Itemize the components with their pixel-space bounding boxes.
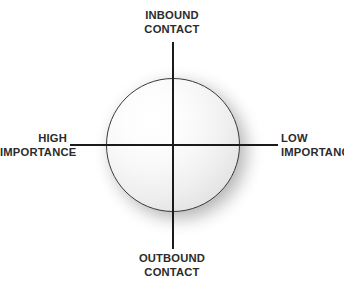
axis-label-top-line2: CONTACT — [0, 23, 344, 37]
axis-label-bottom-line2: CONTACT — [0, 266, 344, 280]
quadrant-diagram: INBOUND CONTACT OUTBOUND CONTACT HIGH IM… — [0, 0, 344, 295]
axis-label-bottom: OUTBOUND CONTACT — [0, 252, 344, 279]
axis-label-top-line1: INBOUND — [0, 9, 344, 23]
axis-label-right-line1: LOW — [281, 132, 344, 146]
axis-label-left-line2: IMPORTANCE — [0, 146, 67, 160]
axis-label-right-line2: IMPORTANCE — [281, 146, 344, 160]
horizontal-axis-line — [70, 144, 278, 146]
axis-label-right: LOW IMPORTANCE — [281, 132, 344, 159]
axis-label-left-line1: HIGH — [0, 132, 67, 146]
axis-label-bottom-line1: OUTBOUND — [0, 252, 344, 266]
axis-label-left: HIGH IMPORTANCE — [0, 132, 67, 159]
axis-label-top: INBOUND CONTACT — [0, 9, 344, 36]
